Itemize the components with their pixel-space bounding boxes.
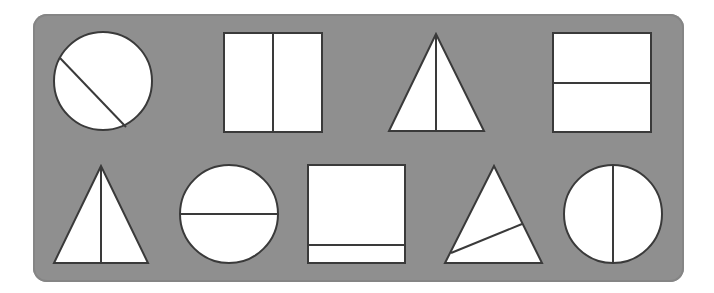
circle-diagonal-split	[54, 32, 152, 130]
circle-horizontal-split	[180, 165, 278, 263]
square-horizontal-split	[553, 33, 651, 132]
shapes-canvas	[0, 0, 714, 293]
triangle-vertical-split-top	[389, 34, 484, 131]
circle-vertical-split	[564, 165, 662, 263]
triangle-vertical-split-bottom	[54, 166, 148, 263]
triangle-slanted-split	[445, 166, 542, 263]
square-unequal-horizontal-split	[308, 165, 405, 263]
square-vertical-split	[224, 33, 322, 132]
